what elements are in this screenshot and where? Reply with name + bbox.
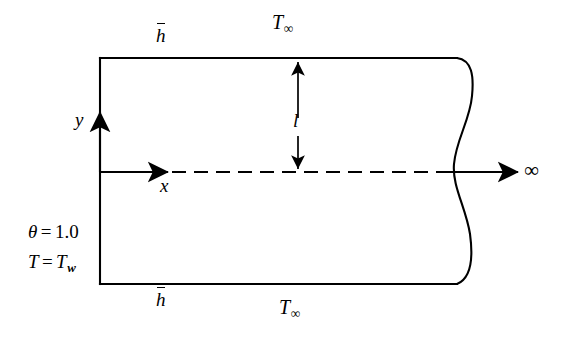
infinity-subscript-icon: ∞ [290,306,300,321]
theta-equals-operator: = [37,221,55,242]
t-infinity-top-label: T∞ [272,12,293,35]
t-infinity-bottom-label: T∞ [279,297,300,320]
t-infinity-bottom-base: T [279,296,290,318]
h-bar-top-label: h [156,26,166,45]
theta-value: 1.0 [55,221,79,242]
wall-temp-value-base: T [56,251,67,272]
h-bar-bottom-glyph: h [156,290,166,309]
wall-subscript-w: w [67,260,76,275]
t-infinity-top-base: T [272,11,283,33]
infinity-subscript-icon: ∞ [283,21,293,36]
wall-temperature-label: T=Tw [28,252,76,275]
h-bar-top-glyph: h [156,26,166,45]
schematic-drawing [0,0,562,338]
figure-canvas: h T∞ h T∞ y x l ∞ θ=1.0 T=Tw [0,0,562,338]
wall-temp-symbol: T [28,251,39,272]
length-dimension-label: l [293,111,298,130]
y-axis-label: y [75,110,83,129]
wall-temp-equals-operator: = [39,251,57,272]
theta-condition-label: θ=1.0 [28,222,79,241]
h-bar-bottom-label: h [156,290,166,309]
x-axis-label: x [160,176,168,195]
infinity-marker-label: ∞ [524,160,539,181]
theta-symbol: θ [28,221,37,242]
